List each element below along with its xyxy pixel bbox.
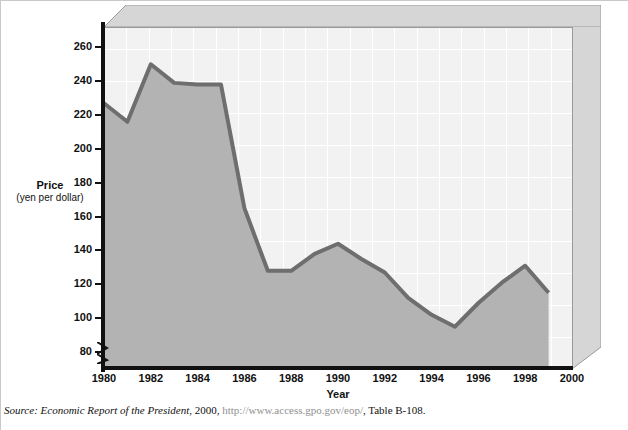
source-lead: Source: Economic Report of the President [4, 404, 189, 416]
y-tick-label: 260 [52, 41, 92, 52]
data-series-area [104, 27, 572, 369]
y-axis-title-sub: (yen per dollar) [8, 192, 92, 204]
y-axis [101, 22, 105, 372]
source-year: , 2000, [189, 404, 222, 416]
plot-area [104, 27, 572, 369]
y-tick-label: 200 [52, 143, 92, 154]
y-tick-label: 140 [52, 244, 92, 255]
chart-figure: 80100120140160180200220240260 1980198219… [0, 0, 628, 430]
x-tick-label: 2000 [542, 372, 602, 384]
x-axis-title: Year [104, 388, 572, 400]
y-tick-mark [95, 351, 102, 353]
y-tick-mark [95, 283, 102, 285]
y-tick-mark [95, 317, 102, 319]
y-tick-label: 120 [52, 278, 92, 289]
y-tick-label: 100 [52, 312, 92, 323]
plot-bevel-right [572, 27, 601, 369]
y-tick-mark [95, 182, 102, 184]
x-axis [101, 366, 573, 370]
source-tail: , Table B-108. [363, 404, 426, 416]
y-tick-mark [95, 80, 102, 82]
y-tick-mark [95, 46, 102, 48]
y-tick-mark [95, 148, 102, 150]
area-fill [104, 64, 549, 369]
y-tick-label: 160 [52, 211, 92, 222]
y-axis-title: Price (yen per dollar) [8, 178, 92, 204]
y-tick-label: 220 [52, 109, 92, 120]
source-note: Source: Economic Report of the President… [4, 404, 426, 416]
y-tick-mark [95, 114, 102, 116]
y-tick-mark [95, 216, 102, 218]
source-url[interactable]: http://www.access.gpo.gov/eop/ [222, 404, 363, 416]
y-tick-label: 240 [52, 75, 92, 86]
y-tick-label: 80 [52, 346, 92, 357]
y-tick-mark [95, 249, 102, 251]
plot-bevel-top [104, 5, 601, 27]
y-axis-title-main: Price [8, 178, 92, 192]
